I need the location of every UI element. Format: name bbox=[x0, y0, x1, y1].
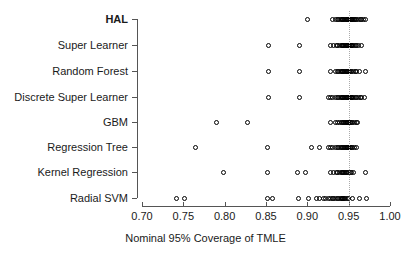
data-point bbox=[359, 43, 364, 48]
data-point bbox=[355, 120, 360, 125]
y-axis-tick bbox=[132, 19, 137, 20]
data-point bbox=[221, 170, 226, 175]
data-point bbox=[297, 95, 302, 100]
data-point bbox=[266, 95, 271, 100]
data-point bbox=[362, 95, 367, 100]
x-axis-tick-label: 0.80 bbox=[214, 211, 235, 222]
x-axis-tick bbox=[183, 202, 184, 206]
data-point bbox=[266, 69, 271, 74]
y-axis-tick bbox=[132, 45, 137, 46]
data-point bbox=[354, 145, 359, 150]
data-point bbox=[364, 196, 369, 201]
scatter-chart-figure: HALSuper LearnerRandom ForestDiscrete Su… bbox=[0, 0, 411, 256]
data-point bbox=[193, 145, 198, 150]
x-axis-tick-label: 0.95 bbox=[338, 211, 359, 222]
data-point bbox=[297, 43, 302, 48]
data-point bbox=[297, 69, 302, 74]
data-point bbox=[363, 170, 368, 175]
x-axis-title: Nominal 95% Coverage of TMLE bbox=[0, 232, 411, 244]
y-axis-tick bbox=[132, 122, 137, 123]
x-axis-line bbox=[142, 206, 390, 207]
data-point bbox=[357, 196, 362, 201]
x-axis-tick-label: 0.70 bbox=[131, 211, 152, 222]
data-point bbox=[265, 145, 270, 150]
x-axis-tick-label: 1.00 bbox=[379, 211, 400, 222]
data-point bbox=[357, 69, 362, 74]
x-axis-tick-label: 0.75 bbox=[173, 211, 194, 222]
x-axis-tick bbox=[142, 202, 143, 206]
y-axis-tick bbox=[132, 147, 137, 148]
reference-line-095 bbox=[349, 11, 351, 206]
data-point bbox=[306, 196, 311, 201]
x-axis-tick bbox=[266, 202, 267, 206]
data-point bbox=[303, 170, 308, 175]
data-point bbox=[363, 69, 368, 74]
y-axis-tick bbox=[132, 172, 137, 173]
y-axis-tick bbox=[132, 71, 137, 72]
data-point bbox=[305, 17, 310, 22]
x-axis-tick-label: 0.90 bbox=[297, 211, 318, 222]
data-point bbox=[350, 196, 355, 201]
x-axis-tick bbox=[390, 202, 391, 206]
data-point bbox=[265, 170, 270, 175]
x-axis-tick-label: 0.85 bbox=[255, 211, 276, 222]
data-point bbox=[317, 145, 322, 150]
data-point bbox=[363, 17, 368, 22]
data-point bbox=[182, 196, 187, 201]
data-point bbox=[174, 196, 179, 201]
y-axis-tick bbox=[132, 97, 137, 98]
data-point bbox=[214, 120, 219, 125]
x-axis-tick bbox=[307, 202, 308, 206]
data-point bbox=[351, 170, 356, 175]
data-point bbox=[296, 196, 301, 201]
data-point bbox=[295, 170, 300, 175]
data-point bbox=[270, 196, 275, 201]
data-point bbox=[266, 43, 271, 48]
x-axis-tick bbox=[225, 202, 226, 206]
data-point bbox=[245, 120, 250, 125]
y-axis-tick bbox=[132, 198, 137, 199]
data-point bbox=[309, 145, 314, 150]
